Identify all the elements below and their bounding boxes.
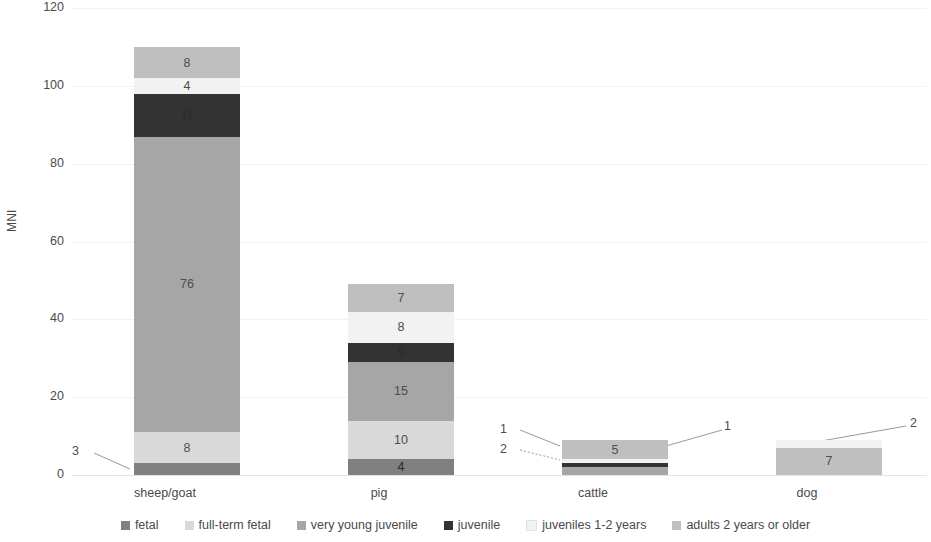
callout-cattle-juveniles-1-2: 1 <box>724 419 731 433</box>
bar-group-cattle: 1 2 1 5 <box>562 8 668 475</box>
y-axis-tick-20: 20 <box>22 389 64 403</box>
callout-leader-sheepgoat-fetal <box>72 448 142 478</box>
y-axis-tick-40: 40 <box>22 311 64 325</box>
y-axis-title: MNI <box>5 212 19 232</box>
bar-group-dog: 2 7 <box>776 8 882 475</box>
legend-item[interactable]: adults 2 years or older <box>672 518 810 532</box>
segment-value-label: 10 <box>348 434 454 447</box>
legend-label: juveniles 1-2 years <box>542 518 646 532</box>
segment-value-label: 5 <box>562 443 668 456</box>
segment-fetal-sheep-goat[interactable] <box>134 463 240 475</box>
bar-stack-sheep-goat: 8 4 11 76 8 <box>134 47 240 475</box>
bar-stack-pig: 7 8 5 15 10 4 <box>348 284 454 475</box>
y-axis-tick-100: 100 <box>22 78 64 92</box>
segment-fetal-pig[interactable]: 4 <box>348 459 454 475</box>
segment-adults-sheep-goat[interactable]: 8 <box>134 47 240 78</box>
callout-leader-cattle-juvenile <box>500 426 570 452</box>
legend-swatch-icon <box>297 521 306 530</box>
legend-label: full-term fetal <box>199 518 271 532</box>
legend-label: very young juvenile <box>311 518 418 532</box>
segment-full-term-fetal-pig[interactable]: 10 <box>348 421 454 460</box>
bar-group-sheep-goat: 3 8 4 11 76 8 <box>134 8 240 475</box>
segment-full-term-fetal-sheep-goat[interactable]: 8 <box>134 432 240 463</box>
segment-very-young-juvenile-cattle[interactable] <box>562 467 668 475</box>
callout-leader-cattle-very-young-juvenile <box>500 446 570 466</box>
segment-value-label: 8 <box>348 321 454 334</box>
legend-swatch-icon <box>121 521 130 530</box>
legend-label: adults 2 years or older <box>686 518 810 532</box>
segment-juvenile-sheep-goat[interactable]: 11 <box>134 94 240 137</box>
x-axis-label-dog: dog <box>724 486 890 500</box>
segment-value-label: 15 <box>348 385 454 398</box>
segment-juveniles-1-2-pig[interactable]: 8 <box>348 312 454 343</box>
segment-value-label: 76 <box>134 278 240 291</box>
segment-value-label: 7 <box>776 455 882 468</box>
legend-swatch-icon <box>672 521 681 530</box>
legend-label: fetal <box>135 518 159 532</box>
segment-very-young-juvenile-pig[interactable]: 15 <box>348 362 454 420</box>
legend-swatch-icon <box>526 520 537 531</box>
gridline-0 <box>72 475 927 476</box>
callout-sheepgoat-fetal: 3 <box>72 444 79 458</box>
segment-adults-dog[interactable]: 7 <box>776 448 882 475</box>
segment-adults-cattle[interactable]: 5 <box>562 440 668 460</box>
y-axis-tick-80: 80 <box>22 156 64 170</box>
segment-value-label: 5 <box>348 346 454 359</box>
legend-item[interactable]: full-term fetal <box>185 518 271 532</box>
segment-adults-pig[interactable]: 7 <box>348 284 454 311</box>
x-axis-label-pig: pig <box>296 486 462 500</box>
legend-item[interactable]: juvenile <box>444 518 500 532</box>
bar-stack-dog: 7 <box>776 440 882 475</box>
segment-value-label: 7 <box>348 292 454 305</box>
legend-label: juvenile <box>458 518 500 532</box>
stacked-bar-chart: MNI 020406080100120 3 8 4 11 76 <box>0 0 931 542</box>
callout-cattle-very-young-juvenile: 2 <box>500 442 507 456</box>
y-axis-tick-120: 120 <box>22 0 64 14</box>
legend-item[interactable]: juveniles 1-2 years <box>526 518 646 532</box>
y-axis-tick-60: 60 <box>22 234 64 248</box>
segment-juveniles-1-2-sheep-goat[interactable]: 4 <box>134 78 240 94</box>
bar-group-pig: 7 8 5 15 10 4 <box>348 8 454 475</box>
plot-area: 3 8 4 11 76 8 <box>72 8 927 475</box>
callout-leader-cattle-juveniles-1-2 <box>660 426 732 452</box>
chart-legend: fetalfull-term fetalvery young juvenilej… <box>0 518 931 532</box>
legend-swatch-icon <box>185 521 194 530</box>
legend-swatch-icon <box>444 521 453 530</box>
x-axis-label-cattle: cattle <box>510 486 676 500</box>
segment-juvenile-pig[interactable]: 5 <box>348 343 454 363</box>
callout-cattle-juvenile: 1 <box>500 422 507 436</box>
segment-value-label: 11 <box>134 109 240 122</box>
bar-stack-cattle: 5 <box>562 440 668 475</box>
legend-item[interactable]: fetal <box>121 518 159 532</box>
segment-value-label: 4 <box>348 461 454 474</box>
callout-dog-juveniles-1-2: 2 <box>910 416 917 430</box>
segment-value-label: 8 <box>134 442 240 455</box>
segment-value-label: 4 <box>134 80 240 93</box>
x-axis-label-sheep-goat: sheep/goat <box>82 486 248 500</box>
y-axis-tick-0: 0 <box>22 467 64 481</box>
legend-item[interactable]: very young juvenile <box>297 518 418 532</box>
segment-juveniles-1-2-dog[interactable] <box>776 440 882 448</box>
segment-very-young-juvenile-sheep-goat[interactable]: 76 <box>134 137 240 433</box>
segment-value-label: 8 <box>134 56 240 69</box>
